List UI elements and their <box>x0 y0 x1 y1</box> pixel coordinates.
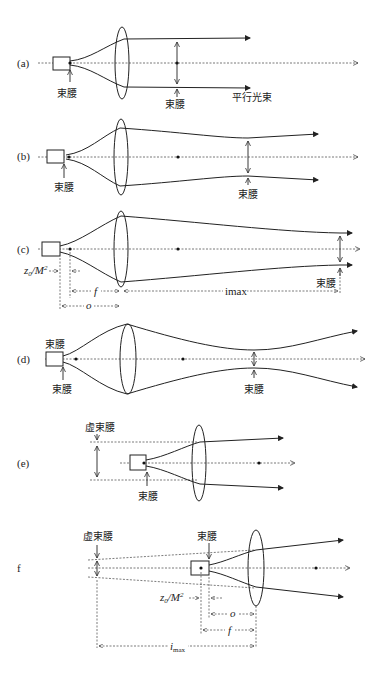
waist-label: 束腰 <box>54 182 74 193</box>
beam-upper <box>70 38 250 61</box>
focal-point <box>257 461 260 464</box>
waist-label: 束腰 <box>197 531 217 542</box>
front-focal-point <box>68 247 71 250</box>
panel-label-c: (c) <box>17 243 30 256</box>
panel-label-e: (e) <box>17 457 30 470</box>
panel-label-f: f <box>17 562 21 574</box>
waist-point <box>68 61 71 64</box>
panel-f: 虚束腰 束腰 f z0/M2 o f imax <box>17 530 350 654</box>
waist-label: 束腰 <box>45 339 65 350</box>
z0-m2-label: z0/M2 <box>159 591 184 605</box>
beam-lower <box>70 65 250 88</box>
beam-lower <box>209 571 343 597</box>
front-focal-point <box>74 357 77 360</box>
laser-source <box>53 57 70 70</box>
focal-point <box>176 155 179 158</box>
panel-a: (a) 束腰 束腰 平行光束 <box>17 27 358 110</box>
back-focal-point <box>181 357 184 360</box>
front-focal-point <box>199 566 202 569</box>
beam-focusing-diagram: (a) 束腰 束腰 平行光束 (b) 束腰 束腰 (c) <box>0 0 385 678</box>
virtual-waist-label: 虚束腰 <box>85 422 115 433</box>
waist-point <box>67 155 70 158</box>
waist-label: 束腰 <box>138 491 158 502</box>
waist-label: 束腰 <box>57 88 77 99</box>
beam-lower <box>63 362 357 394</box>
panel-label-b: (b) <box>17 150 30 163</box>
panel-b: (b) 束腰 束腰 <box>17 119 358 200</box>
laser-source <box>46 352 63 366</box>
beam-upper <box>66 128 318 155</box>
panel-d: 束腰 (d) 束腰 束腰 <box>17 324 365 395</box>
panel-e: 虚束腰 (e) 束腰 <box>17 422 295 502</box>
o-label: o <box>86 299 92 311</box>
beam-upper <box>60 216 352 246</box>
parallel-beam-label: 平行光束 <box>232 91 272 103</box>
laser-source <box>47 150 64 163</box>
z0-m2-label: z0/M2 <box>23 264 48 278</box>
beam-lower <box>66 159 318 186</box>
virtual-beam-lower <box>88 577 255 588</box>
beam-upper <box>146 438 283 460</box>
beam-upper <box>209 540 343 565</box>
waist-label: 束腰 <box>316 278 336 289</box>
waist-label: 束腰 <box>52 384 72 395</box>
laser-source <box>42 242 60 256</box>
waist-label: 束腰 <box>244 384 264 395</box>
beam-upper <box>63 324 357 356</box>
back-focal-point <box>176 247 179 250</box>
panel-c: (c) 束腰 z0/M2 f imax o <box>17 211 360 311</box>
waist-label: 束腰 <box>238 189 258 200</box>
imax-label: imax <box>225 285 247 297</box>
panel-label-a: (a) <box>17 57 30 70</box>
waist-point <box>142 461 145 464</box>
waist-label: 束腰 <box>165 99 185 110</box>
panel-label-d: (d) <box>17 353 30 366</box>
virtual-waist-label: 虚束腰 <box>83 531 113 542</box>
o-label: o <box>230 607 236 619</box>
back-focal-point <box>314 566 317 569</box>
beam-lower <box>146 466 283 488</box>
beam-lower <box>60 252 352 282</box>
